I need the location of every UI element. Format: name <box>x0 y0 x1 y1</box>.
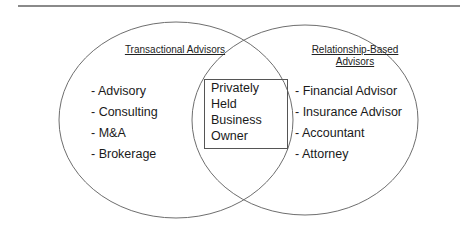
list-item: - M&A <box>91 123 158 144</box>
list-item: - Insurance Advisor <box>295 102 402 123</box>
right-set-list: - Financial Advisor - Insurance Advisor … <box>295 81 402 165</box>
list-item: - Accountant <box>295 123 402 144</box>
left-set-title: Transactional Advisors <box>110 44 240 56</box>
list-item: - Financial Advisor <box>295 81 402 102</box>
intersection-line: Privately <box>211 80 287 96</box>
right-set-title-line1: Relationship-Based <box>300 44 410 56</box>
right-set-title: Relationship-Based Advisors <box>300 44 410 68</box>
left-set-list: - Advisory - Consulting - M&A - Brokerag… <box>91 81 158 165</box>
intersection-box: Privately Held Business Owner <box>204 79 288 149</box>
intersection-line: Held <box>211 96 287 112</box>
right-set-title-line2: Advisors <box>300 56 410 68</box>
list-item: - Attorney <box>295 144 402 165</box>
list-item: - Advisory <box>91 81 158 102</box>
list-item: - Brokerage <box>91 144 158 165</box>
intersection-line: Business <box>211 112 287 128</box>
list-item: - Consulting <box>91 102 158 123</box>
intersection-line: Owner <box>211 128 287 144</box>
